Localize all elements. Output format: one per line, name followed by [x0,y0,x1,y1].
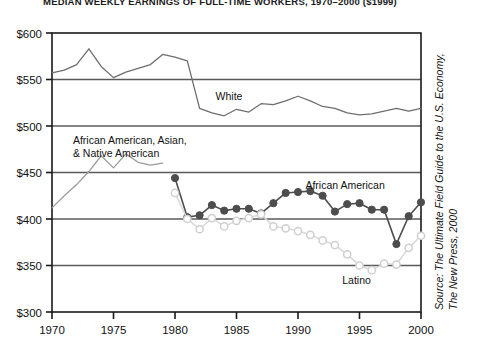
anno-combined-line1: African American, Asian, [73,134,187,146]
series-line [52,154,163,208]
data-point [307,231,314,238]
x-tick-label: 2000 [408,324,434,336]
data-point [171,189,178,196]
data-point [233,205,240,212]
data-point [368,206,375,213]
data-point [270,223,277,230]
data-point [245,214,252,221]
data-point [221,207,228,214]
data-point [381,260,388,267]
anno-latino: Latino [342,274,371,286]
data-point [221,223,228,230]
data-point [245,205,252,212]
y-tick-label: $500 [16,121,42,133]
data-point [270,200,277,207]
series-white [52,49,421,116]
data-point [208,214,215,221]
anno-african-american: African American [305,179,385,191]
data-point [282,225,289,232]
y-tick-label: $400 [16,214,42,226]
data-point [381,206,388,213]
y-tick-label: $450 [16,167,42,179]
x-tick-label: 1980 [162,324,188,336]
x-tick-label: 1985 [224,324,250,336]
x-tick-label: 1995 [347,324,373,336]
data-point [405,244,412,251]
data-point [368,267,375,274]
data-point [417,232,424,239]
y-tick-label: $350 [16,260,42,272]
data-point [294,227,301,234]
source-note: Source: The Ultimate Field Guide to the … [433,53,459,310]
data-point [393,241,400,248]
data-point [233,217,240,224]
chart-canvas: $300$350$400$450$500$550$600 19701975198… [0,0,487,345]
data-point [208,201,215,208]
data-point [331,241,338,248]
y-tick-label: $300 [16,307,42,319]
y-tick-label: $550 [16,74,42,86]
data-point [196,212,203,219]
data-point [196,226,203,233]
series-african-american [171,174,424,247]
y-tick-label: $600 [16,28,42,40]
data-point [282,189,289,196]
source-note-group: Source: The Ultimate Field Guide to the … [433,53,459,310]
data-point [344,201,351,208]
data-point [294,188,301,195]
data-point [393,261,400,268]
data-point [344,251,351,258]
data-point [171,174,178,181]
data-point [331,208,338,215]
data-point [417,199,424,206]
data-point [405,213,412,220]
x-axis-ticks-group: 1970197519801985199019952000 [39,312,434,336]
series-group [52,49,425,274]
gridlines-group [52,80,421,266]
x-tick-label: 1970 [39,324,65,336]
x-tick-label: 1975 [101,324,127,336]
data-point [356,262,363,269]
data-point [319,192,326,199]
y-axis-ticks-group: $300$350$400$450$500$550$600 [16,28,52,319]
chart-container: MEDIAN WEEKLY EARNINGS OF FULL-TIME WORK… [0,0,487,345]
data-point [258,211,265,218]
anno-combined-line2: & Native American [73,147,160,159]
anno-white: White [216,90,243,102]
series-african-american-asian-native-american [52,154,163,208]
data-point [184,215,191,222]
data-point [356,200,363,207]
x-tick-label: 1990 [285,324,311,336]
annotations-group: WhiteAfrican American, Asian,& Native Am… [73,90,385,286]
series-line [52,49,421,116]
data-point [319,237,326,244]
